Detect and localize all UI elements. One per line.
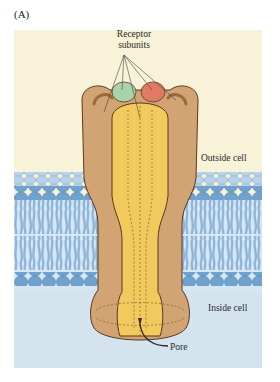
subunit-green [112,82,136,102]
pore-label: Pore [170,342,187,353]
inside-cell-label: Inside cell [208,303,247,314]
ion-channel-illustration [0,0,280,382]
outside-cell-label: Outside cell [201,153,247,164]
receptor-label-line2: subunits [104,40,164,51]
subunit-red [141,82,165,102]
receptor-subunits-label: Receptor subunits [104,29,164,51]
panel-label: (A) [14,8,29,20]
receptor-label-line1: Receptor [104,29,164,40]
receptor-diagram: (A) Receptor subunits Outside cell Insid… [0,0,280,382]
